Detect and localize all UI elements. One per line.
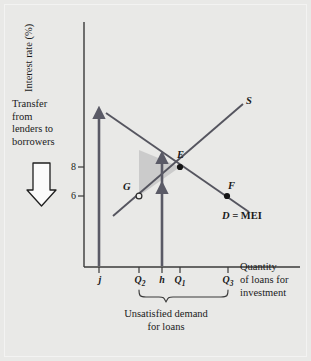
x-tick-label-h-text: h — [159, 274, 165, 285]
supply-curve-label: S — [246, 95, 252, 107]
x-tick-label-q3: Q3 — [218, 274, 238, 288]
point-E-marker — [177, 164, 183, 170]
x-tick-label-q3-text: Q — [223, 274, 230, 285]
economics-figure: Interest rate (%) 8 6 j Q2 h Q1 Q3 Quant… — [0, 0, 311, 361]
x-tick-label-q2-text: Q — [135, 274, 142, 285]
y-axis-title: Interest rate (%) — [23, 3, 35, 113]
transfer-down-arrow-icon — [27, 163, 56, 206]
y-tick-label-6: 6 — [62, 190, 76, 201]
x-tick-label-q1: Q1 — [170, 274, 190, 288]
x-axis-title: Quantity of loans for investment — [240, 261, 310, 299]
x-axis-title-line-3: investment — [240, 287, 310, 300]
x-tick-label-j-text: j — [99, 274, 102, 285]
y-tick-label-8: 8 — [62, 161, 76, 172]
transfer-annotation-line-2: from — [12, 111, 74, 124]
transfer-annotation-line-4: borrowers — [12, 136, 74, 149]
x-tick-label-j: j — [92, 274, 108, 285]
point-F-marker — [224, 193, 230, 199]
point-E-label: E — [177, 149, 184, 161]
x-tick-label-q2-sub: 2 — [142, 279, 146, 288]
x-tick-label-q1-sub: 1 — [182, 279, 186, 288]
x-tick-label-q3-sub: 3 — [230, 279, 234, 288]
x-tick-label-h: h — [155, 274, 169, 285]
x-axis-title-line-1: Quantity — [240, 261, 310, 274]
plot-canvas — [0, 0, 311, 361]
x-tick-label-q1-text: Q — [175, 274, 182, 285]
unsatisfied-demand-annotation: Unsatisfied demand for loans — [96, 308, 236, 334]
demand-label-eq: = — [230, 210, 241, 221]
point-F-label: F — [228, 180, 235, 192]
transfer-annotation: Transfer from lenders to borrowers — [12, 98, 74, 149]
unsatisfied-demand-line-2: for loans — [96, 321, 236, 334]
demand-curve-label: D = MEI — [222, 210, 262, 222]
unsatisfied-demand-line-1: Unsatisfied demand — [96, 308, 236, 321]
demand-label-d: D — [222, 210, 230, 221]
point-G-marker — [136, 193, 142, 199]
demand-label-mei: MEI — [241, 210, 262, 221]
point-G-label: G — [123, 181, 131, 193]
transfer-annotation-line-3: lenders to — [12, 123, 74, 136]
unsatisfied-demand-brace — [139, 290, 228, 302]
x-axis-title-line-2: of loans for — [240, 274, 310, 287]
transfer-annotation-line-1: Transfer — [12, 98, 74, 111]
x-tick-label-q2: Q2 — [130, 274, 150, 288]
